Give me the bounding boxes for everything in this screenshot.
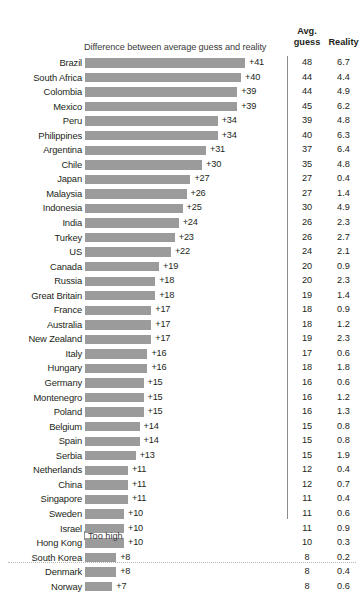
row-difference-value: +10 <box>128 537 143 547</box>
chart-row: Spain+14150.8 <box>0 434 364 449</box>
row-bar-wrapper <box>85 189 187 198</box>
row-difference-value: +15 <box>148 377 163 387</box>
row-avg-guess-value: 26 <box>289 232 325 242</box>
row-bar-wrapper <box>85 480 128 489</box>
row-reality-value: 0.6 <box>325 508 362 518</box>
row-bar-wrapper <box>85 116 218 125</box>
row-bar-wrapper <box>85 306 151 315</box>
row-bar <box>85 277 155 286</box>
row-difference-value: +15 <box>148 392 163 402</box>
chart-row: France+17180.9 <box>0 303 364 318</box>
row-avg-guess-value: 12 <box>289 464 325 474</box>
row-difference-value: +34 <box>222 130 237 140</box>
row-difference-value: +40 <box>245 72 260 82</box>
row-country-label: Australia <box>47 319 82 330</box>
row-country-label: Canada <box>50 261 82 272</box>
row-country-label: Peru <box>63 115 82 126</box>
row-country-label: Hong Kong <box>36 537 82 548</box>
row-avg-guess-value: 19 <box>289 333 325 343</box>
row-bar-wrapper <box>85 495 128 504</box>
row-difference-value: +39 <box>241 101 256 111</box>
row-bar-wrapper <box>85 218 179 227</box>
chart-row: India+24262.3 <box>0 216 364 231</box>
row-country-label: Brazil <box>59 57 82 68</box>
row-difference-value: +34 <box>222 115 237 125</box>
chart-row: Denmark+880.4 <box>0 565 364 580</box>
row-bar <box>85 73 241 82</box>
row-avg-guess-value: 27 <box>289 188 325 198</box>
chart-row: Mexico+39456.2 <box>0 100 364 115</box>
chart-row: Philippines+34406.3 <box>0 129 364 144</box>
too-high-annotation: Too high <box>84 531 123 541</box>
row-reality-value: 0.8 <box>325 421 362 431</box>
row-bar-wrapper <box>85 160 202 169</box>
chart-row: Hungary+16181.8 <box>0 361 364 376</box>
chart-header: Difference between average guess and rea… <box>0 12 364 54</box>
chart-rows: Brazil+41486.7South Africa+40444.4Colomb… <box>0 56 364 594</box>
chart-subtitle: Difference between average guess and rea… <box>84 42 266 52</box>
row-difference-value: +13 <box>140 450 155 460</box>
row-bar <box>85 116 218 125</box>
row-difference-value: +16 <box>151 348 166 358</box>
row-avg-guess-value: 15 <box>289 450 325 460</box>
chart-row: Italy+16170.6 <box>0 347 364 362</box>
row-reality-value: 2.1 <box>325 246 362 256</box>
row-difference-value: +30 <box>206 159 221 169</box>
row-avg-guess-value: 16 <box>289 392 325 402</box>
row-bar <box>85 437 140 446</box>
row-bar-wrapper <box>85 233 175 242</box>
row-bar <box>85 146 206 155</box>
chart-row: Hong Kong+10100.3 <box>0 536 364 551</box>
row-bar <box>85 553 116 562</box>
row-reality-value: 6.2 <box>325 101 362 111</box>
row-difference-value: +11 <box>132 479 146 489</box>
chart-row: Brazil+41486.7 <box>0 56 364 71</box>
row-bar <box>85 87 237 96</box>
row-bar-wrapper <box>85 146 206 155</box>
row-difference-value: +17 <box>155 333 170 343</box>
row-country-label: Philippines <box>38 130 82 141</box>
row-country-label: Russia <box>54 275 82 286</box>
row-avg-guess-value: 24 <box>289 246 325 256</box>
row-bar <box>85 349 147 358</box>
row-reality-value: 4.9 <box>325 86 362 96</box>
row-difference-value: +8 <box>120 552 130 562</box>
row-country-label: Serbia <box>56 450 82 461</box>
row-bar <box>85 247 171 256</box>
row-country-label: China <box>58 479 82 490</box>
row-bar <box>85 160 202 169</box>
row-reality-value: 0.4 <box>325 493 362 503</box>
column-header-reality: Reality <box>325 37 362 48</box>
row-bar <box>85 189 187 198</box>
row-country-label: South Korea <box>32 552 82 563</box>
row-country-label: France <box>54 304 82 315</box>
row-reality-value: 0.9 <box>325 261 362 271</box>
row-country-label: South Africa <box>33 72 82 83</box>
chart-row: Germany+15160.6 <box>0 376 364 391</box>
chart-row: Colombia+39444.9 <box>0 85 364 100</box>
column-header-avg-line1: Avg. <box>289 26 325 37</box>
chart-row: China+11120.7 <box>0 478 364 493</box>
row-avg-guess-value: 18 <box>289 362 325 372</box>
row-avg-guess-value: 44 <box>289 72 325 82</box>
row-country-label: Singapore <box>41 493 82 504</box>
chart-row: New Zealand+17192.3 <box>0 332 364 347</box>
chart-row: Argentina+31376.4 <box>0 143 364 158</box>
column-header-avg-line2: guess <box>289 37 325 48</box>
row-bar-wrapper <box>85 291 155 300</box>
row-avg-guess-value: 26 <box>289 217 325 227</box>
row-reality-value: 0.6 <box>325 377 362 387</box>
row-reality-value: 0.8 <box>325 435 362 445</box>
row-bar <box>85 451 136 460</box>
row-country-label: Denmark <box>45 566 82 577</box>
row-avg-guess-value: 12 <box>289 479 325 489</box>
row-bar <box>85 407 144 416</box>
chart-row: Peru+34394.8 <box>0 114 364 129</box>
row-bar-wrapper <box>85 58 245 67</box>
row-reality-value: 2.3 <box>325 217 362 227</box>
row-avg-guess-value: 19 <box>289 290 325 300</box>
row-bar-wrapper <box>85 175 190 184</box>
row-bar <box>85 262 159 271</box>
row-bar-wrapper <box>85 247 171 256</box>
